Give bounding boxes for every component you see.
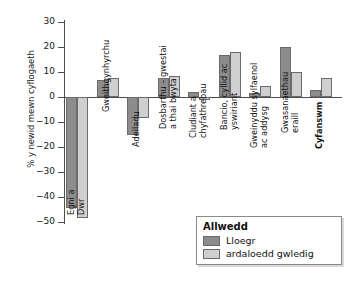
y-tick-label: 0 [15, 92, 55, 101]
legend-item: Lloegr [203, 235, 335, 246]
bar-lloegr [310, 90, 321, 98]
x-axis-category-label: Cyfanswm [315, 102, 325, 149]
legend-item: ardaloedd gwledig [203, 248, 335, 259]
legend-label: ardaloedd gwledig [226, 248, 314, 259]
x-axis-category-label: Cludiant a chyfathrebau [189, 84, 208, 138]
x-axis-category-label: Dosbarthu – gwestai a thai bwyta [159, 45, 178, 129]
y-axis-title: % y newid mewn cyflogaeth [26, 34, 36, 184]
legend-swatch-icon [203, 249, 220, 259]
x-axis-category-label: Adeiladu [132, 111, 142, 147]
legend-box: Allwedd Lloegrardaloedd gwledig [196, 216, 342, 265]
bar-ardaloedd-gwledig [321, 78, 332, 97]
y-tick-label: −20 [15, 142, 55, 151]
legend-title: Allwedd [203, 221, 335, 232]
y-tick-label: 30 [15, 17, 55, 26]
y-tick-label: −10 [15, 117, 55, 126]
y-tick-label: −30 [15, 167, 55, 176]
x-axis-category-label: Gwasanaethau eraill [281, 72, 300, 133]
y-tick-label: 10 [15, 67, 55, 76]
x-axis-category-label: Egni a Dwr [67, 190, 86, 215]
bar-chart: % y newid mewn cyflogaeth 3020100−10−20−… [0, 0, 349, 285]
x-axis-category-label: Gweithgynhyrchu [102, 40, 112, 112]
x-axis-category-label: Gweinyddu sylfaenol ac addysg [250, 63, 269, 148]
y-tick-label: −50 [15, 217, 55, 226]
y-tick-mark [58, 222, 64, 223]
x-axis-category-label: Bancio, cyllid ac yswiriant [220, 64, 239, 130]
y-tick-label: −40 [15, 192, 55, 201]
y-tick-label: 20 [15, 42, 55, 51]
legend-entries: Lloegrardaloedd gwledig [203, 235, 335, 259]
legend-swatch-icon [203, 236, 220, 246]
legend-label: Lloegr [226, 235, 256, 246]
